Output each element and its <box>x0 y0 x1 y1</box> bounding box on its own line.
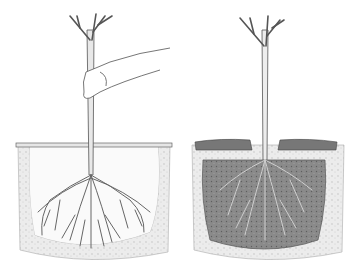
soil-surface-left <box>195 139 252 150</box>
hand <box>83 48 170 98</box>
soil-surface-right <box>278 139 337 150</box>
backfill <box>202 160 325 249</box>
trunk-right <box>262 30 268 160</box>
left-panel <box>16 14 172 260</box>
right-panel <box>192 16 344 260</box>
hole-left <box>30 146 159 244</box>
illustration <box>0 0 360 277</box>
level-stick <box>16 143 172 147</box>
